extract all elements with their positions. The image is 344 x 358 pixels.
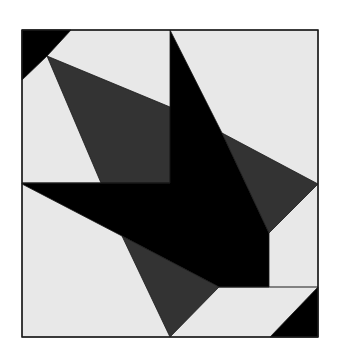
geometric-figure <box>0 0 344 358</box>
quilt-block-figure <box>0 0 344 358</box>
